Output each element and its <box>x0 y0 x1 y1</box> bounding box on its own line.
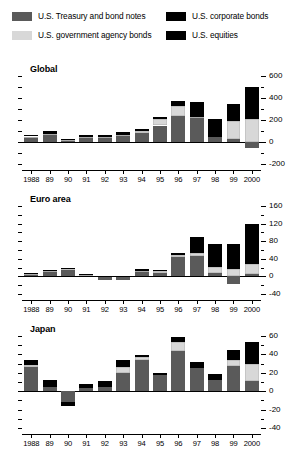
bar-column[interactable] <box>96 206 114 294</box>
x-axis-label: 89 <box>40 305 58 314</box>
x-axis-label: 96 <box>169 439 187 448</box>
y-axis-label: 0 <box>269 272 273 280</box>
x-axis-labels: 198889909192939495969798992000 <box>22 305 261 314</box>
bar-column[interactable] <box>77 76 95 164</box>
bar-segment <box>190 368 204 391</box>
bar-column[interactable] <box>114 206 132 294</box>
bar-column[interactable] <box>206 76 224 164</box>
bar-column[interactable] <box>243 206 261 294</box>
bar-column[interactable] <box>151 206 169 294</box>
bar-segment <box>98 137 112 138</box>
bar-column[interactable] <box>59 336 77 428</box>
legend-label-agency: U.S. government agency bonds <box>38 31 151 40</box>
bar-segment <box>61 139 75 140</box>
y-axis-label: -20 <box>269 406 281 414</box>
bar-column[interactable] <box>77 206 95 294</box>
legend-item-treasury: U.S. Treasury and bond notes <box>12 8 151 24</box>
bar-segment <box>135 360 149 391</box>
bar-column[interactable] <box>224 336 242 428</box>
bar-segment <box>171 253 185 255</box>
bar-column[interactable] <box>224 76 242 164</box>
bar-column[interactable] <box>206 336 224 428</box>
bar-column[interactable] <box>96 336 114 428</box>
axis-tick <box>18 164 22 165</box>
axis-minor-tick <box>261 382 264 383</box>
bar-segment <box>245 260 259 264</box>
bar-column[interactable] <box>169 76 187 164</box>
bar-segment <box>171 342 185 350</box>
axis-minor-tick <box>261 400 264 401</box>
bar-segment <box>43 131 57 134</box>
bar-column[interactable] <box>188 76 206 164</box>
bar-column[interactable] <box>96 76 114 164</box>
axis-tick <box>18 224 22 225</box>
bar-column[interactable] <box>169 336 187 428</box>
bar-column[interactable] <box>188 336 206 428</box>
bar-stack <box>171 336 185 428</box>
bar-column[interactable] <box>59 206 77 294</box>
figure-root: U.S. Treasury and bond notes U.S. govern… <box>0 0 307 469</box>
bar-column[interactable] <box>40 336 58 428</box>
bar-segment <box>227 121 241 139</box>
bar-stack <box>79 336 93 428</box>
x-tick <box>132 434 150 438</box>
x-tick <box>96 300 114 304</box>
bar-segment <box>227 104 241 118</box>
bar-column[interactable] <box>114 76 132 164</box>
bar-column[interactable] <box>224 206 242 294</box>
legend-column-right: U.S. corporate bonds U.S. equities <box>166 8 268 46</box>
axis-tick <box>261 391 266 392</box>
axis-minor-tick <box>261 419 264 420</box>
y-axis-label: 20 <box>269 369 278 377</box>
bar-segment <box>190 237 204 251</box>
bar-stack <box>208 76 222 164</box>
bar-column[interactable] <box>188 206 206 294</box>
bar-stack <box>43 76 57 164</box>
bar-segment <box>61 140 75 141</box>
axis-tick <box>261 259 266 260</box>
bar-segment <box>245 381 259 391</box>
bar-segment <box>98 387 112 392</box>
bar-segment <box>43 271 57 276</box>
bar-column[interactable] <box>77 336 95 428</box>
legend-label-equities: U.S. equities <box>192 31 238 40</box>
axis-tick <box>261 224 266 225</box>
x-tick <box>114 170 132 174</box>
bar-column[interactable] <box>59 76 77 164</box>
x-axis-label: 98 <box>206 175 224 184</box>
plot-area-global <box>22 76 261 164</box>
bar-column[interactable] <box>132 336 150 428</box>
y-axis-label: 60 <box>269 332 278 340</box>
axis-minor-tick <box>261 345 264 346</box>
bar-segment <box>24 367 38 391</box>
bar-column[interactable] <box>40 206 58 294</box>
bar-column[interactable] <box>40 76 58 164</box>
bar-segment <box>208 130 222 137</box>
axis-tick <box>18 153 22 154</box>
bar-column[interactable] <box>169 206 187 294</box>
bar-column[interactable] <box>243 76 261 164</box>
bar-stack <box>61 76 75 164</box>
axis-tick <box>261 76 266 77</box>
x-tick <box>40 434 58 438</box>
x-axis-label: 93 <box>114 305 132 314</box>
bar-segment <box>135 269 149 271</box>
x-axis-ticks <box>22 170 261 174</box>
axis-tick <box>18 276 22 277</box>
bar-column[interactable] <box>151 336 169 428</box>
bar-column[interactable] <box>114 336 132 428</box>
bar-stack <box>116 76 130 164</box>
bar-segment <box>24 360 38 365</box>
bar-segment <box>79 388 93 392</box>
bar-column[interactable] <box>206 206 224 294</box>
bar-segment <box>43 387 57 392</box>
bar-column[interactable] <box>132 206 150 294</box>
bar-column[interactable] <box>243 336 261 428</box>
x-tick <box>206 170 224 174</box>
x-axis-label: 91 <box>77 175 95 184</box>
bar-stack <box>135 336 149 428</box>
bar-column[interactable] <box>132 76 150 164</box>
bar-segment <box>98 135 112 136</box>
bar-segment <box>171 337 185 343</box>
bar-column[interactable] <box>151 76 169 164</box>
